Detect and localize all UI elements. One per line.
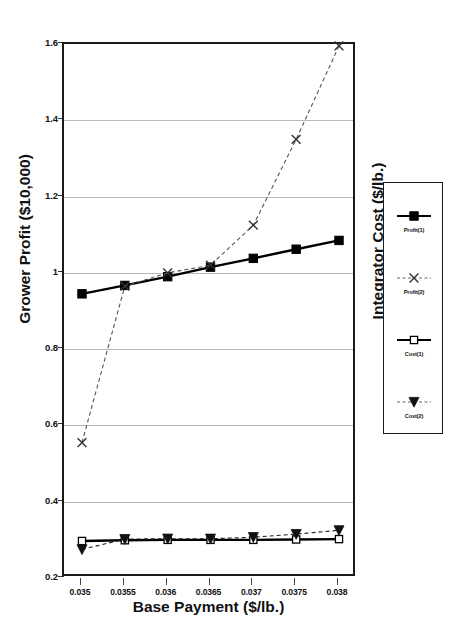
data-point-marker-legend-0 bbox=[410, 212, 418, 220]
data-point-marker-3-2 bbox=[163, 534, 173, 544]
series-line bbox=[82, 539, 339, 541]
data-point-marker-3-5 bbox=[291, 530, 301, 540]
series-line bbox=[82, 240, 339, 293]
x-tick-label: 0.036 bbox=[155, 587, 176, 597]
data-point-marker-1-5 bbox=[292, 135, 301, 144]
legend-entry-cost1[interactable]: Cost(1) bbox=[384, 331, 444, 357]
data-point-marker-1-1 bbox=[120, 282, 129, 291]
x-tick-mark bbox=[251, 578, 252, 585]
chart-figure: Grower Profit ($10,000) Integrator Cost … bbox=[0, 0, 452, 643]
data-point-marker-3-1 bbox=[120, 534, 130, 544]
y-tick-label: 1.4 bbox=[18, 113, 58, 124]
x-tick-label: 0.035 bbox=[70, 587, 91, 597]
data-point-marker-2-6 bbox=[335, 535, 342, 542]
y-tick-label: 1.6 bbox=[18, 37, 58, 48]
data-point-marker-2-4 bbox=[250, 536, 257, 543]
data-point-marker-2-2 bbox=[164, 536, 171, 543]
legend-entry-profit2[interactable]: Profit(2) bbox=[384, 269, 444, 295]
x-tick-mark bbox=[337, 578, 338, 585]
y-tick-label: 0.2 bbox=[18, 571, 58, 582]
series-line bbox=[82, 46, 339, 443]
y-tick-mark bbox=[58, 576, 64, 577]
data-point-marker-2-0 bbox=[78, 537, 85, 544]
series-cost1 bbox=[78, 535, 342, 544]
data-point-marker-0-6 bbox=[335, 236, 343, 244]
gridline bbox=[64, 349, 353, 350]
data-point-marker-1-0 bbox=[78, 438, 87, 447]
x-tick-label: 0.0365 bbox=[196, 587, 221, 597]
data-point-marker-3-4 bbox=[248, 533, 258, 543]
data-point-marker-legend-2 bbox=[410, 336, 417, 343]
series-profit1 bbox=[78, 236, 343, 298]
data-point-marker-0-3 bbox=[206, 263, 214, 271]
x-tick-mark bbox=[209, 578, 210, 585]
data-point-marker-3-0 bbox=[77, 545, 87, 555]
x-tick-label: 0.038 bbox=[327, 587, 348, 597]
data-point-marker-1-3 bbox=[206, 261, 215, 270]
data-point-marker-0-5 bbox=[292, 245, 300, 253]
legend-marker-filled-square-icon bbox=[384, 207, 444, 225]
data-point-marker-3-6 bbox=[334, 526, 344, 536]
data-point-marker-2-1 bbox=[121, 537, 128, 544]
series-layer bbox=[64, 44, 357, 578]
data-point-marker-0-0 bbox=[78, 290, 86, 298]
data-point-marker-2-3 bbox=[207, 536, 214, 543]
legend-marker-x-cross-icon bbox=[384, 269, 444, 287]
series-cost2 bbox=[77, 526, 344, 555]
plot-area bbox=[62, 42, 355, 576]
x-tick-label: 0.0375 bbox=[281, 587, 306, 597]
data-point-marker-1-6 bbox=[335, 42, 344, 51]
gridline bbox=[64, 502, 353, 503]
series-line bbox=[82, 530, 339, 549]
x-axis-title: Base Payment ($/lb.) bbox=[62, 598, 355, 616]
legend-entry-cost2[interactable]: Cost(2) bbox=[384, 393, 444, 419]
data-point-marker-0-4 bbox=[249, 254, 257, 262]
y-tick-label: 0.4 bbox=[18, 494, 58, 505]
legend-label: Cost(1) bbox=[384, 351, 444, 357]
y-tick-label: 1.2 bbox=[18, 189, 58, 200]
series-profit2 bbox=[78, 42, 344, 447]
y-axis-ticks: 0.20.40.60.811.21.41.6 bbox=[14, 42, 58, 576]
data-point-marker-1-4 bbox=[249, 221, 258, 230]
x-tick-mark bbox=[123, 578, 124, 585]
y-tick-label: 0.6 bbox=[18, 418, 58, 429]
legend-label: Profit(1) bbox=[384, 227, 444, 233]
legend-marker-filled-triangle-down-icon bbox=[384, 393, 444, 411]
x-tick-label: 0.0355 bbox=[110, 587, 135, 597]
x-tick-mark bbox=[294, 578, 295, 585]
gridline bbox=[64, 197, 353, 198]
legend-entry-profit1[interactable]: Profit(1) bbox=[384, 207, 444, 233]
legend-label: Profit(2) bbox=[384, 289, 444, 295]
gridline bbox=[64, 273, 353, 274]
y-tick-label: 0.8 bbox=[18, 342, 58, 353]
chart-legend: Profit(1)Profit(2)Cost(1)Cost(2) bbox=[383, 182, 443, 434]
data-point-marker-2-5 bbox=[293, 536, 300, 543]
data-point-marker-3-3 bbox=[206, 534, 216, 544]
legend-marker-open-square-icon bbox=[384, 331, 444, 349]
legend-label: Cost(2) bbox=[384, 413, 444, 419]
y-tick-label: 1 bbox=[18, 265, 58, 276]
gridline bbox=[64, 120, 353, 121]
data-point-marker-0-1 bbox=[121, 281, 129, 289]
x-tick-mark bbox=[80, 578, 81, 585]
x-tick-mark bbox=[166, 578, 167, 585]
x-tick-label: 0.037 bbox=[241, 587, 262, 597]
gridline bbox=[64, 425, 353, 426]
